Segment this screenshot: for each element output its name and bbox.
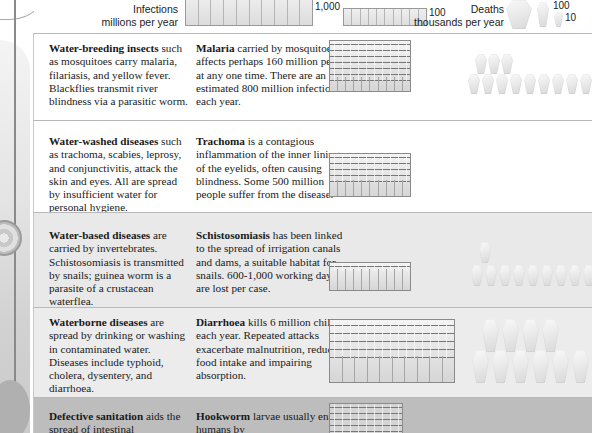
disease-name: Trachoma bbox=[196, 135, 245, 147]
infections-pictogram bbox=[329, 262, 411, 291]
deaths-unit: thousands per year bbox=[384, 15, 504, 29]
death-coffin-icon bbox=[580, 74, 592, 94]
disease-name: Schistosomiasis bbox=[196, 229, 270, 241]
deaths-label: Deaths bbox=[404, 2, 504, 16]
infections-pictogram bbox=[329, 403, 403, 433]
infections-pictogram bbox=[329, 153, 411, 197]
disease-name: Malaria bbox=[196, 42, 235, 54]
death-coffin-icon bbox=[468, 74, 480, 94]
infections-unit: millions per year bbox=[38, 15, 178, 29]
death-coffin-icon bbox=[542, 319, 559, 352]
disease-description: Schistosomiasis has been linked to the s… bbox=[196, 229, 351, 295]
death-coffin-icon bbox=[488, 54, 500, 74]
death-coffin-icon bbox=[527, 265, 539, 286]
category-description: Defective sanitation aids the spread of … bbox=[49, 410, 189, 433]
deaths-scale-10-coffin-icon bbox=[537, 2, 549, 27]
legend: Infections millions per year 1,000 100 D… bbox=[0, 0, 592, 33]
table-row-water-washed-diseases: Water-washed diseases such as trachoma, … bbox=[33, 120, 592, 212]
death-coffin-icon bbox=[501, 54, 513, 74]
death-coffin-icon bbox=[502, 319, 519, 352]
death-coffin-icon bbox=[499, 265, 511, 286]
deaths-scale-100-coffin-icon bbox=[506, 0, 532, 29]
death-coffin-icon bbox=[572, 350, 589, 383]
category-name: Waterborne diseases bbox=[49, 316, 148, 328]
infections-label: Infections bbox=[58, 2, 178, 16]
infections-scale-1000-icon bbox=[185, 0, 313, 26]
death-coffin-icon bbox=[552, 74, 564, 94]
disease-description: Trachoma is a contagious inflammation of… bbox=[196, 135, 351, 201]
table-row-water-breeding-insects: Water-breeding insects such as mosquitoe… bbox=[33, 33, 592, 120]
category-name: Water-washed diseases bbox=[49, 135, 158, 147]
deaths-scale-10-value: 10 bbox=[565, 12, 576, 23]
death-coffin-icon bbox=[583, 265, 592, 286]
death-coffin-icon bbox=[538, 74, 550, 94]
infections-pictogram bbox=[329, 319, 455, 383]
death-coffin-icon bbox=[472, 350, 489, 383]
death-coffin-icon bbox=[532, 350, 549, 383]
death-coffin-icon bbox=[522, 319, 539, 352]
disease-description: Hookworm larvae usually enter humans by bbox=[196, 410, 351, 433]
death-coffin-icon bbox=[482, 319, 499, 352]
death-coffin-icon bbox=[510, 74, 522, 94]
death-coffin-icon bbox=[513, 265, 525, 286]
category-name: Defective sanitation bbox=[49, 410, 143, 422]
infections-pictogram bbox=[329, 40, 411, 92]
death-coffin-icon bbox=[475, 54, 487, 74]
infections-scale-1000-value: 1,000 bbox=[315, 1, 340, 12]
decorative-illustration bbox=[0, 0, 34, 433]
death-coffin-icon bbox=[482, 74, 494, 94]
death-coffin-icon bbox=[492, 350, 509, 383]
death-coffin-icon bbox=[485, 265, 497, 286]
death-coffin-icon bbox=[555, 265, 567, 286]
category-description: Waterborne diseases are spread by drinki… bbox=[49, 316, 189, 396]
deaths-scale-small-coffin-icon bbox=[554, 12, 563, 27]
table-row-waterborne-diseases: Waterborne diseases are spread by drinki… bbox=[33, 307, 592, 397]
death-coffin-icon bbox=[496, 74, 508, 94]
category-description: Water-breeding insects such as mosquitoe… bbox=[49, 42, 189, 108]
disease-description: Malaria carried by mosquitoes, affects p… bbox=[196, 42, 351, 108]
category-description: Water-based diseases are carried by inve… bbox=[49, 229, 189, 309]
table-row-water-based-diseases: Water-based diseases are carried by inve… bbox=[33, 212, 592, 307]
death-coffin-icon bbox=[566, 74, 578, 94]
death-coffin-icon bbox=[541, 265, 553, 286]
death-coffin-icon bbox=[552, 350, 569, 383]
table-row-defective-sanitation: Defective sanitation aids the spread of … bbox=[33, 397, 592, 433]
death-coffin-icon bbox=[524, 74, 536, 94]
category-name: Water-breeding insects bbox=[49, 42, 159, 54]
death-coffin-icon bbox=[471, 265, 483, 286]
death-coffin-icon bbox=[479, 242, 491, 263]
category-description: Water-washed diseases such as trachoma, … bbox=[49, 135, 189, 215]
death-coffin-icon bbox=[569, 265, 581, 286]
disease-name: Diarrhoea bbox=[196, 316, 245, 328]
deaths-scale-100-value: 100 bbox=[553, 0, 570, 11]
illustration-stem bbox=[14, 0, 16, 433]
category-name: Water-based diseases bbox=[49, 229, 150, 241]
disease-name: Hookworm bbox=[196, 410, 250, 422]
death-coffin-icon bbox=[512, 350, 529, 383]
disease-description: Diarrhoea kills 6 million children each … bbox=[196, 316, 351, 382]
